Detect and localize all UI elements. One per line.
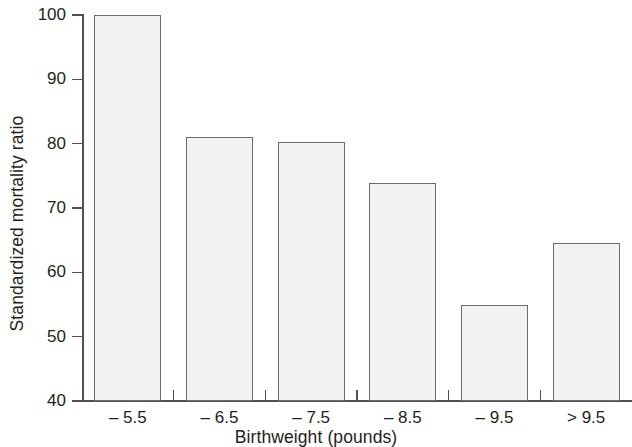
y-axis-tick-label: 80: [6, 135, 66, 152]
x-axis-tick: [356, 390, 358, 401]
x-axis-tick-label: – 7.5: [261, 408, 361, 427]
y-axis-tick-label: 40: [6, 392, 66, 409]
x-axis-tick-label: – 8.5: [353, 408, 453, 427]
x-axis-tick: [173, 390, 175, 401]
y-axis-tick: [72, 14, 83, 16]
y-axis-tick-label: 70: [6, 199, 66, 216]
y-axis-tick: [72, 207, 83, 209]
x-axis-title: Birthweight (pounds): [0, 427, 632, 447]
x-axis-tick-label: – 9.5: [445, 408, 545, 427]
y-axis-tick-label: 50: [6, 328, 66, 345]
y-axis-tick: [72, 143, 83, 145]
x-axis-tick-label: – 5.5: [78, 408, 178, 427]
bar-chart-figure: Standardized mortality ratio 40506070809…: [0, 0, 632, 447]
bar: [369, 183, 436, 401]
y-axis-tick: [72, 272, 83, 274]
x-axis-tick: [540, 390, 542, 401]
y-axis-tick-label: 100: [6, 6, 66, 23]
bar: [94, 15, 161, 401]
y-axis-tick: [72, 400, 83, 402]
bar: [186, 137, 253, 401]
bar: [553, 243, 620, 401]
bar: [461, 305, 528, 402]
y-axis-tick: [72, 79, 83, 81]
x-axis-tick: [265, 390, 267, 401]
x-axis-tick-label: > 9.5: [536, 408, 632, 427]
y-axis-tick: [72, 336, 83, 338]
x-axis-tick: [448, 390, 450, 401]
y-axis-title: Standardized mortality ratio: [0, 0, 34, 447]
y-axis-tick-label: 90: [6, 70, 66, 87]
bar: [278, 142, 345, 401]
x-axis-tick-label: – 6.5: [170, 408, 270, 427]
y-axis-tick-label: 60: [6, 263, 66, 280]
